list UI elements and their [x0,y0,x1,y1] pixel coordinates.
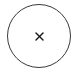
close-button[interactable] [7,4,71,68]
close-icon [35,32,44,41]
stage [0,0,78,74]
